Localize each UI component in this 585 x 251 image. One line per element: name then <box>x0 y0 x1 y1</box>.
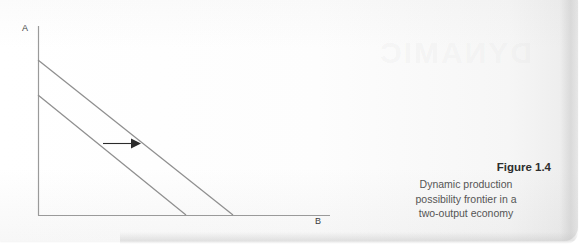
figure-caption-title: Figure 1.4 <box>380 160 552 175</box>
scanned-page: DYNAMIC A B Figure 1.4 Dynamic productio… <box>0 0 585 251</box>
x-axis-label: B <box>315 216 321 226</box>
figure-caption-line-1: Dynamic production <box>380 177 552 192</box>
shift-arrow <box>103 139 141 149</box>
chart-svg <box>0 0 360 251</box>
figure-caption: Figure 1.4 Dynamic production possibilit… <box>380 160 552 221</box>
y-axis-label: A <box>22 23 28 33</box>
figure-caption-line-3: two-output economy <box>380 206 552 221</box>
figure-caption-line-2: possibility frontier in a <box>380 192 552 207</box>
frontier-line-shifted <box>38 60 233 215</box>
frontier-line-initial <box>38 95 186 215</box>
figure-chart: A B <box>0 0 360 251</box>
